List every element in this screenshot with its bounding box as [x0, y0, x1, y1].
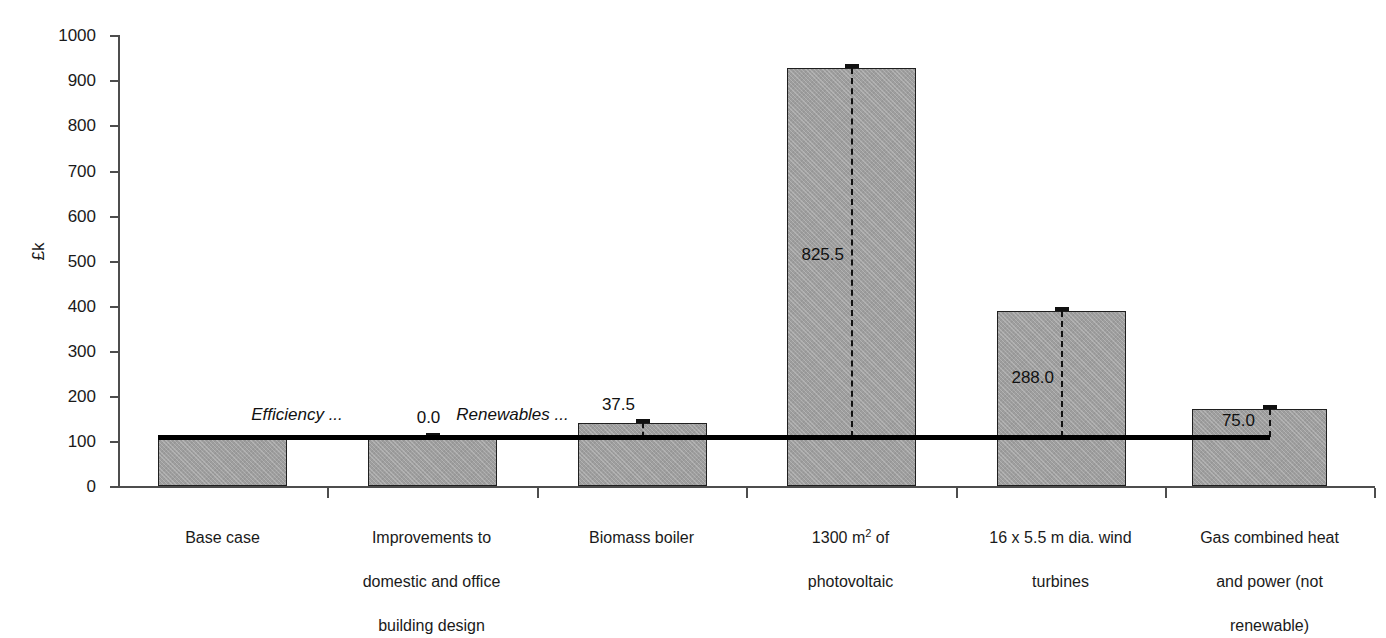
y-tick-mark-400 — [110, 306, 119, 308]
dashed-drop-wind — [1061, 311, 1063, 437]
category-label-line-1: Base case — [118, 527, 327, 549]
value-label-wind: 288.0 — [939, 369, 1054, 386]
y-tick-label-900: 900 — [40, 72, 96, 89]
y-tick-label-600: 600 — [40, 208, 96, 225]
y-tick-mark-500 — [110, 261, 119, 263]
y-tick-mark-900 — [110, 80, 119, 82]
value-label-gas-chp: 75.0 — [1145, 412, 1255, 429]
cost-baseline — [158, 435, 1270, 440]
x-tick-6 — [1374, 488, 1376, 498]
category-label-line-1: Gas combined heat — [1165, 527, 1374, 549]
y-tick-mark-600 — [110, 216, 119, 218]
phase-label-efficiency: Efficiency ... — [192, 406, 402, 423]
dashed-drop-gas-chp — [1269, 409, 1271, 437]
dashed-drop-photovoltaic — [851, 68, 853, 437]
x-tick-3 — [746, 488, 748, 498]
category-label-base-case: Base case — [118, 505, 327, 571]
y-tick-label-500: 500 — [40, 253, 96, 270]
y-tick-label-800: 800 — [40, 117, 96, 134]
category-label-line-1: Improvements to — [327, 527, 536, 549]
category-label-line-2: and power (not — [1165, 571, 1374, 593]
category-label-line-1-text: 1300 m — [812, 529, 865, 546]
y-tick-label-400: 400 — [40, 298, 96, 315]
y-tick-label-0: 0 — [40, 478, 96, 495]
y-tick-mark-800 — [110, 125, 119, 127]
phase-label-renewables: Renewables ... — [400, 406, 625, 423]
category-label-line-2: photovoltaic — [746, 571, 955, 593]
category-label-photovoltaic: 1300 m2 of photovoltaic — [746, 505, 955, 615]
y-tick-mark-300 — [110, 351, 119, 353]
category-label-gas-chp: Gas combined heat and power (not renewab… — [1165, 505, 1374, 638]
bar-base-case[interactable] — [158, 437, 287, 486]
category-label-biomass-boiler: Biomass boiler — [537, 505, 746, 571]
y-tick-mark-100 — [110, 441, 119, 443]
y-tick-mark-700 — [110, 171, 119, 173]
value-label-photovoltaic: 825.5 — [729, 246, 844, 263]
category-label-line-3: building design — [327, 615, 536, 637]
category-label-line-1: 1300 m2 of — [746, 527, 955, 549]
category-label-improvements: Improvements to domestic and office buil… — [327, 505, 536, 638]
x-tick-4 — [956, 488, 958, 498]
y-tick-mark-200 — [110, 396, 119, 398]
y-tick-label-1000: 1000 — [40, 27, 96, 44]
category-label-line-1: 16 x 5.5 m dia. wind — [956, 527, 1165, 549]
y-tick-mark-1000 — [110, 35, 119, 37]
x-tick-1 — [327, 488, 329, 498]
y-tick-label-200: 200 — [40, 388, 96, 405]
bar-improvements[interactable] — [368, 437, 497, 486]
y-tick-label-700: 700 — [40, 163, 96, 180]
x-tick-2 — [537, 488, 539, 498]
category-label-line-2: turbines — [956, 571, 1165, 593]
x-tick-5 — [1165, 488, 1167, 498]
category-label-line-2: domestic and office — [327, 571, 536, 593]
y-tick-label-300: 300 — [40, 343, 96, 360]
category-label-line-3: renewable) — [1165, 615, 1374, 637]
y-tick-mark-0 — [110, 486, 119, 488]
category-label-wind-turbines: 16 x 5.5 m dia. wind turbines — [956, 505, 1165, 615]
y-tick-label-100: 100 — [40, 433, 96, 450]
category-label-line-1: Biomass boiler — [537, 527, 746, 549]
category-label-line-1-suffix: of — [871, 529, 889, 546]
